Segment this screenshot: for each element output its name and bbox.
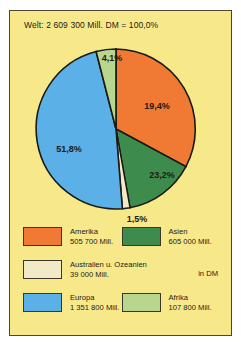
legend: Amerika 505 700 Mill. Asien 605 000 Mill…: [23, 226, 220, 325]
pie-chart-svg: 19,4% 23,2% 1,5% 51,8% 4,1%: [10, 33, 231, 223]
pie-label-amerika: 19,4%: [144, 101, 170, 111]
legend-item-amerika[interactable]: Amerika 505 700 Mill.: [23, 226, 122, 246]
legend-row: Australien u. Ozeanien 39 000 Mill. in D…: [23, 259, 220, 281]
pie-chart: 19,4% 23,2% 1,5% 51,8% 4,1%: [10, 33, 231, 223]
legend-value-afrika: 107 800 Mill.: [169, 303, 212, 313]
legend-row: Amerika 505 700 Mill. Asien 605 000 Mill…: [23, 226, 220, 248]
legend-item-asien[interactable]: Asien 605 000 Mill.: [122, 226, 221, 246]
legend-item-australien[interactable]: Australien u. Ozeanien 39 000 Mill.: [23, 259, 183, 279]
legend-value-amerika: 505 700 Mill.: [70, 237, 113, 247]
legend-swatch-amerika: [23, 227, 62, 246]
chart-title: Welt: 2 609 300 Mill. DM = 100,0%: [24, 20, 158, 30]
legend-swatch-asien: [122, 227, 161, 246]
legend-label-afrika: Afrika: [169, 293, 212, 303]
legend-value-asien: 605 000 Mill.: [169, 237, 212, 247]
legend-row: Europa 1 351 800 Mill. Afrika 107 800 Mi…: [23, 292, 220, 314]
chart-card: Welt: 2 609 300 Mill. DM = 100,0% 19,4% …: [9, 10, 232, 336]
chart-page: Welt: 2 609 300 Mill. DM = 100,0% 19,4% …: [0, 0, 241, 346]
legend-item-afrika[interactable]: Afrika 107 800 Mill.: [122, 292, 221, 312]
legend-label-asien: Asien: [169, 227, 212, 237]
legend-swatch-europa: [23, 293, 62, 312]
legend-swatch-australien: [23, 260, 62, 279]
legend-item-europa[interactable]: Europa 1 351 800 Mill.: [23, 292, 122, 312]
legend-value-europa: 1 351 800 Mill.: [70, 303, 119, 313]
pie-label-asien: 23,2%: [149, 170, 175, 180]
legend-value-australien: 39 000 Mill.: [70, 270, 147, 280]
legend-swatch-afrika: [122, 293, 161, 312]
legend-label-europa: Europa: [70, 293, 119, 303]
pie-label-australien: 1,5%: [127, 214, 148, 223]
unit-note: in DM: [198, 259, 220, 278]
pie-label-afrika: 4,1%: [102, 53, 123, 63]
legend-label-amerika: Amerika: [70, 227, 113, 237]
pie-label-europa: 51,8%: [56, 144, 82, 154]
legend-label-australien: Australien u. Ozeanien: [70, 260, 147, 270]
